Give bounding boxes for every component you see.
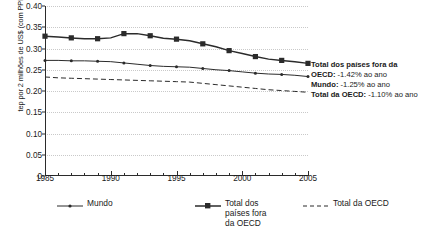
y-tick-label: 0.15 (26, 108, 42, 117)
data-point-marker (70, 59, 73, 62)
data-point-marker (201, 67, 204, 70)
data-point-marker (96, 60, 99, 63)
y-tick-label: 0.10 (26, 129, 42, 138)
data-point-marker (253, 54, 258, 59)
annotation-value: -1.10% ao ano (368, 90, 417, 99)
legend-label: Total da OECD (333, 198, 389, 208)
data-point-marker (44, 59, 47, 62)
legend-item: Total dos países fora da OECD (195, 198, 267, 227)
data-point-marker (279, 58, 284, 63)
series-line (45, 77, 308, 92)
annotation-row: Mundo: -1.25% ao ano (311, 80, 422, 90)
data-point-marker (69, 35, 74, 40)
x-tick-label: 1990 (102, 174, 120, 183)
annotation-value: -1.42% ao ano (338, 70, 387, 79)
y-axis-title: tep por 2 milhões de US$ (com PPP) (16, 0, 25, 133)
data-point-marker (175, 65, 178, 68)
annotation-label: Mundo: (311, 80, 341, 89)
data-point-marker (228, 69, 231, 72)
series-dot (44, 59, 310, 78)
plot-area: 00.050.100.150.200.250.300.350.40 (45, 6, 308, 176)
x-tick-label: 2000 (233, 174, 251, 183)
data-point-marker (227, 48, 232, 53)
y-tick-label: 0.25 (26, 65, 42, 74)
y-tick-label: 0.35 (26, 23, 42, 32)
data-point-marker (122, 61, 125, 64)
chart-figure: tep por 2 milhões de US$ (com PPP) 00.05… (0, 0, 422, 227)
data-point-marker (149, 64, 152, 67)
legend-item: Mundo (57, 198, 113, 211)
data-point-marker (307, 75, 310, 78)
data-point-marker (280, 73, 283, 76)
y-tick-label: 0.30 (26, 44, 42, 53)
x-tick-label: 1995 (167, 174, 185, 183)
y-tick-label: 0.20 (26, 87, 42, 96)
legend-swatch-dashed-icon (303, 201, 329, 211)
chart-legend: MundoTotal dos países fora da OECDTotal … (45, 198, 405, 226)
annotation-row: Total da OECD: -1.10% ao ano (311, 90, 422, 100)
annotation-value: -1.25% ao ano (341, 80, 390, 89)
legend-swatch-dot-icon (57, 201, 83, 211)
x-tick-label: 1985 (36, 174, 54, 183)
data-point-marker (121, 31, 126, 36)
data-point-marker (174, 37, 179, 42)
legend-item: Total da OECD (303, 198, 389, 211)
data-point-marker (95, 36, 100, 41)
y-tick-label: 0.40 (26, 2, 42, 11)
x-tick-label: 2005 (299, 174, 317, 183)
data-point-marker (148, 33, 153, 38)
legend-swatch-square-icon (195, 201, 221, 211)
legend-label: Total dos países fora da OECD (225, 198, 267, 227)
data-point-marker (200, 41, 205, 46)
data-point-marker (305, 61, 310, 66)
annotation-row: Total dos países fora da OECD: -1.42% ao… (311, 60, 422, 80)
annotation-block: Total dos países fora da OECD: -1.42% ao… (311, 60, 422, 100)
y-tick-label: 0.05 (26, 150, 42, 159)
series-none (45, 77, 308, 92)
series-layer (45, 6, 308, 176)
series-line (45, 60, 308, 76)
annotation-label: Total da OECD: (311, 90, 368, 99)
legend-label: Mundo (87, 198, 113, 208)
data-point-marker (254, 72, 257, 75)
data-point-marker (42, 34, 47, 39)
